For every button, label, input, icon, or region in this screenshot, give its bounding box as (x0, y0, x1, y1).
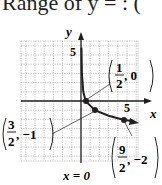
x-axis-arrow (144, 98, 152, 104)
x-tick-5: 5 (124, 101, 130, 115)
label-point-9half-neg2: 9 2 , −2 (112, 137, 158, 178)
point-3half-neg1 (92, 107, 98, 113)
label-point-half-0: 1 2 , 0 (109, 60, 153, 92)
svg-text:2: 2 (116, 76, 123, 91)
svg-text:, −1: , −1 (16, 127, 36, 142)
svg-text:, −2: , −2 (127, 152, 147, 167)
svg-text:3: 3 (8, 117, 15, 132)
point-half-0 (83, 98, 89, 104)
point-9half-neg2 (121, 117, 127, 123)
curve-arrow (129, 118, 139, 125)
svg-text:9: 9 (119, 142, 126, 157)
y-axis-label: y (64, 24, 72, 39)
y-tick-5: 5 (70, 45, 76, 59)
svg-text:2: 2 (119, 160, 126, 175)
asymptote-label: x = 0 (62, 168, 90, 183)
svg-text:1: 1 (116, 60, 123, 75)
graph: y x 5 5 1 2 , 0 3 2 , −1 9 2 , −2 x = 0 (0, 0, 162, 185)
x-axis-label: x (149, 106, 157, 121)
svg-text:, 0: , 0 (124, 68, 137, 83)
svg-text:2: 2 (8, 134, 15, 149)
label-point-3half-neg1: 3 2 , −1 (3, 117, 53, 150)
y-axis-arrow (78, 32, 84, 40)
